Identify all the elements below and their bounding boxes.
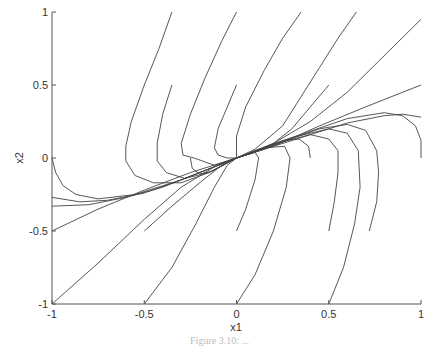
trajectory-line (237, 139, 311, 158)
x-tick-label: 0 (233, 308, 239, 320)
trajectory-line (237, 146, 291, 304)
trajectory-line (126, 12, 237, 183)
trajectory-line (214, 85, 236, 158)
trajectory-line (237, 152, 259, 231)
trajectory-line (237, 19, 422, 158)
y-axis-label: x2 (13, 152, 25, 164)
x-tick-label: -1 (47, 308, 57, 320)
trajectory-line (237, 124, 379, 231)
trajectory-line (181, 12, 236, 165)
trajectory-line (52, 158, 237, 304)
y-tick-label: 0.5 (33, 79, 48, 91)
trajectory-line (237, 113, 422, 158)
y-tick-label: -0.5 (29, 225, 48, 237)
trajectories (52, 12, 421, 304)
trajectory-line (237, 129, 361, 304)
y-tick-label: -1 (38, 298, 48, 310)
trajectory-line (237, 85, 329, 158)
x-tick-label: -0.5 (135, 308, 154, 320)
trajectory-line (237, 12, 302, 158)
x-tick-label: 1 (418, 308, 424, 320)
trajectory-line (144, 158, 236, 231)
figure-caption: Figure 3.10: ... (0, 335, 439, 346)
x-tick-label: 0.5 (321, 308, 336, 320)
x-ticks: -1-0.500.51 (47, 300, 424, 320)
x-axis-label: x1 (230, 321, 242, 333)
y-tick-label: 1 (42, 6, 48, 18)
trajectory-line (144, 158, 236, 304)
y-tick-label: 0 (42, 152, 48, 164)
trajectory-line (237, 114, 422, 158)
